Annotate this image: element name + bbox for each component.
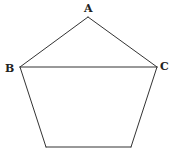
edge-b-bottomleft [20,67,46,147]
vertex-label-b: B [5,62,14,75]
vertex-label-c: C [160,60,169,73]
pentagon-diagram: A B C [0,0,175,155]
edge-ac [88,17,157,67]
edge-ab [20,17,88,67]
edge-c-bottomright [131,67,157,147]
vertex-label-a: A [83,2,93,15]
